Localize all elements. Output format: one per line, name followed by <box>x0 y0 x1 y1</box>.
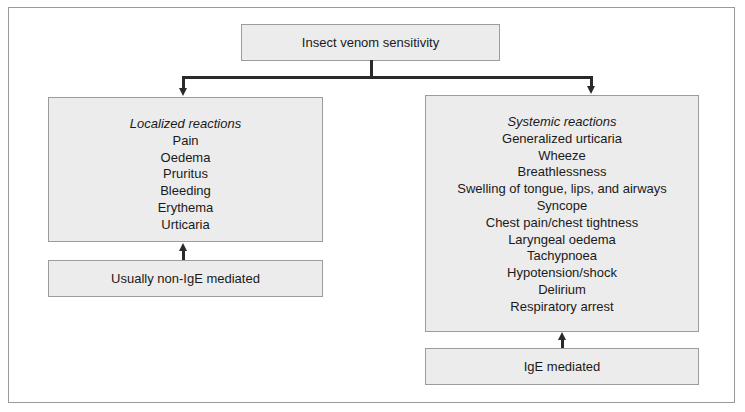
localized-reactions-node: Localized reactions Pain Oedema Pruritus… <box>48 97 323 242</box>
list-item: Bleeding <box>49 183 322 200</box>
localized-heading: Localized reactions <box>49 116 322 133</box>
list-item: Chest pain/chest tightness <box>426 215 698 232</box>
systemic-reactions-node: Systemic reactions Generalized urticaria… <box>425 95 699 332</box>
list-item: Laryngeal oedema <box>426 232 698 249</box>
root-node: Insect venom sensitivity <box>241 24 500 61</box>
systemic-heading: Systemic reactions <box>426 114 698 131</box>
list-item: Pain <box>49 133 322 150</box>
list-item: Wheeze <box>426 148 698 165</box>
list-item: Generalized urticaria <box>426 131 698 148</box>
list-item: Oedema <box>49 150 322 167</box>
ige-node: IgE mediated <box>425 348 699 385</box>
non-ige-label: Usually non-IgE mediated <box>111 271 260 286</box>
root-label: Insect venom sensitivity <box>302 35 439 50</box>
list-item: Delirium <box>426 282 698 299</box>
horizontal-connector <box>182 76 593 79</box>
list-item: Erythema <box>49 200 322 217</box>
list-item: Swelling of tongue, lips, and airways <box>426 181 698 198</box>
left-arrow-down-icon <box>179 88 187 96</box>
list-item: Tachypnoea <box>426 248 698 265</box>
non-ige-node: Usually non-IgE mediated <box>48 260 323 297</box>
list-item: Pruritus <box>49 166 322 183</box>
list-item: Respiratory arrest <box>426 299 698 316</box>
list-item: Breathlessness <box>426 164 698 181</box>
list-item: Urticaria <box>49 217 322 234</box>
right-arrow-down-icon <box>587 86 595 94</box>
list-item: Syncope <box>426 198 698 215</box>
list-item: Hypotension/shock <box>426 265 698 282</box>
ige-label: IgE mediated <box>524 359 601 374</box>
